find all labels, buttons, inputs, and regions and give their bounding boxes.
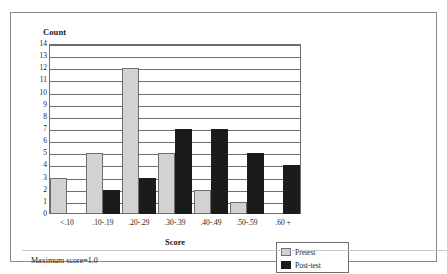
bar-group <box>265 44 301 214</box>
y-tick-label: 1 <box>43 198 47 206</box>
x-tick-label: .20-.29 <box>128 218 149 227</box>
y-tick-label: 4 <box>43 162 47 170</box>
legend: PretestPost-test <box>276 242 349 273</box>
bar-posttest <box>283 165 300 214</box>
bar-group <box>121 44 157 214</box>
x-tick-label: .50-.59 <box>236 218 257 227</box>
x-axis-tick-labels: <.10.10-.19.20-.29.30-.39.40-.49.50-.59.… <box>49 218 301 232</box>
x-tick-label: <.10 <box>60 218 74 227</box>
legend-item: Post-test <box>281 259 348 271</box>
y-tick-label: 3 <box>43 174 47 182</box>
y-axis-tick-labels: 01234567891011121314 <box>27 44 47 214</box>
footer-divider <box>22 250 447 251</box>
y-tick-label: 11 <box>40 77 47 85</box>
y-tick-label: 5 <box>43 150 47 158</box>
bar-group <box>85 44 121 214</box>
bar-posttest <box>247 153 264 214</box>
bar-posttest <box>211 129 228 214</box>
bar-pretest <box>230 202 247 214</box>
x-tick-label: .10-.19 <box>92 218 113 227</box>
bar-posttest <box>139 178 156 214</box>
bar-posttest <box>103 190 120 214</box>
bars-layer <box>49 44 301 214</box>
footer-note: Maximum score=1.0 <box>31 256 98 265</box>
legend-label: Post-test <box>295 261 321 270</box>
bar-posttest <box>175 129 192 214</box>
bar-group <box>193 44 229 214</box>
y-tick-label: 8 <box>43 113 47 121</box>
bar-pretest <box>194 190 211 214</box>
bar-group <box>157 44 193 214</box>
legend-label: Pretest <box>295 248 315 257</box>
figure-frame: Count 01234567891011121314 <.10.10-.19.2… <box>10 12 437 262</box>
y-tick-label: 2 <box>43 186 47 194</box>
legend-item: Pretest <box>281 246 348 258</box>
bar-pretest <box>122 68 139 214</box>
y-tick-label: 14 <box>40 40 48 48</box>
y-tick-label: 0 <box>43 210 47 218</box>
y-tick-label: 13 <box>40 52 48 60</box>
bar-group <box>49 44 85 214</box>
bar-pretest <box>50 178 67 214</box>
x-axis-title: Score <box>49 237 301 247</box>
y-tick-label: 12 <box>40 65 48 73</box>
y-tick-label: 10 <box>40 89 48 97</box>
y-tick-label: 7 <box>43 125 47 133</box>
x-tick-label: .30-.39 <box>164 218 185 227</box>
bar-pretest <box>86 153 103 214</box>
y-tick-label: 6 <box>43 137 47 145</box>
bar-pretest <box>158 153 175 214</box>
y-tick-label: 9 <box>43 101 47 109</box>
x-tick-label: .60 + <box>275 218 290 227</box>
x-tick-label: .40-.49 <box>200 218 221 227</box>
bar-group <box>229 44 265 214</box>
y-axis-title: Count <box>43 27 66 37</box>
legend-swatch-posttest <box>281 261 291 269</box>
